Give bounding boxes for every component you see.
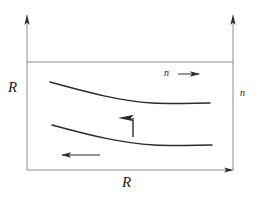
figure-container: R R n n bbox=[0, 0, 263, 198]
left-axis-label: R bbox=[8, 80, 17, 95]
upper-curve bbox=[50, 82, 210, 103]
diagram-canvas bbox=[0, 0, 263, 198]
top-flow-label: n bbox=[164, 68, 169, 78]
lower-curve bbox=[52, 125, 212, 145]
right-axis-label: n bbox=[240, 88, 245, 98]
bottom-axis-label: R bbox=[122, 175, 131, 190]
